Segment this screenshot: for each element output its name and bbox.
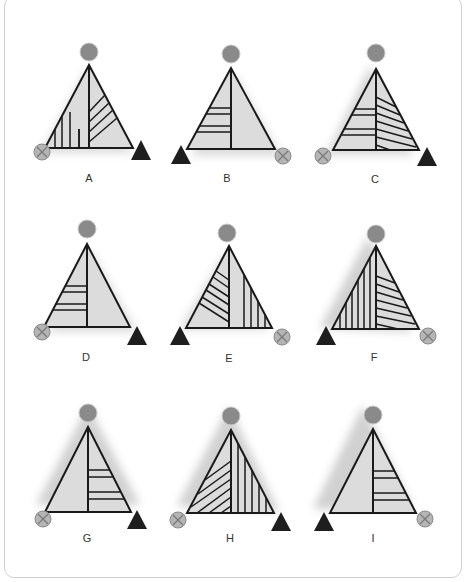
figure-label: A	[85, 172, 93, 184]
cross-circle-icon	[35, 511, 51, 527]
cross-circle-icon	[275, 148, 291, 164]
figure-label: I	[371, 532, 374, 544]
puzzle-grid: A B	[0, 0, 467, 582]
figure-e[interactable]: E	[170, 224, 290, 364]
figure-label: C	[371, 173, 379, 185]
figure-i[interactable]: I	[313, 405, 433, 544]
figure-h[interactable]: H	[170, 406, 291, 544]
cross-circle-icon	[170, 512, 186, 528]
figure-g[interactable]: G	[35, 404, 147, 544]
figure-c[interactable]: C	[315, 44, 437, 185]
dark-triangle-icon	[314, 512, 334, 531]
gray-circle-icon	[367, 44, 385, 62]
figure-d[interactable]: D	[34, 220, 147, 363]
figure-label: F	[371, 351, 378, 363]
figure-label: D	[82, 351, 90, 363]
cross-circle-icon	[420, 328, 436, 344]
gray-circle-icon	[367, 225, 385, 243]
gray-circle-icon	[218, 224, 236, 242]
gray-circle-icon	[222, 407, 240, 425]
dark-triangle-icon	[131, 140, 151, 160]
figure-f[interactable]: F	[316, 225, 436, 363]
gray-circle-icon	[222, 45, 240, 63]
cross-circle-icon	[34, 324, 50, 340]
figure-label: E	[225, 352, 232, 364]
dark-triangle-icon	[271, 512, 291, 531]
figure-label: G	[83, 532, 92, 544]
cross-circle-icon	[417, 511, 433, 527]
gray-circle-icon	[79, 404, 97, 422]
figure-b[interactable]: B	[171, 45, 291, 184]
figure-label: B	[223, 172, 230, 184]
gray-circle-icon	[78, 220, 96, 238]
gray-circle-icon	[364, 406, 382, 424]
gray-circle-icon	[80, 43, 98, 61]
figure-label: H	[226, 532, 234, 544]
cross-circle-icon	[34, 144, 50, 160]
cross-circle-icon	[274, 329, 290, 345]
cross-circle-icon	[315, 148, 331, 164]
figure-a[interactable]: A	[34, 43, 151, 184]
